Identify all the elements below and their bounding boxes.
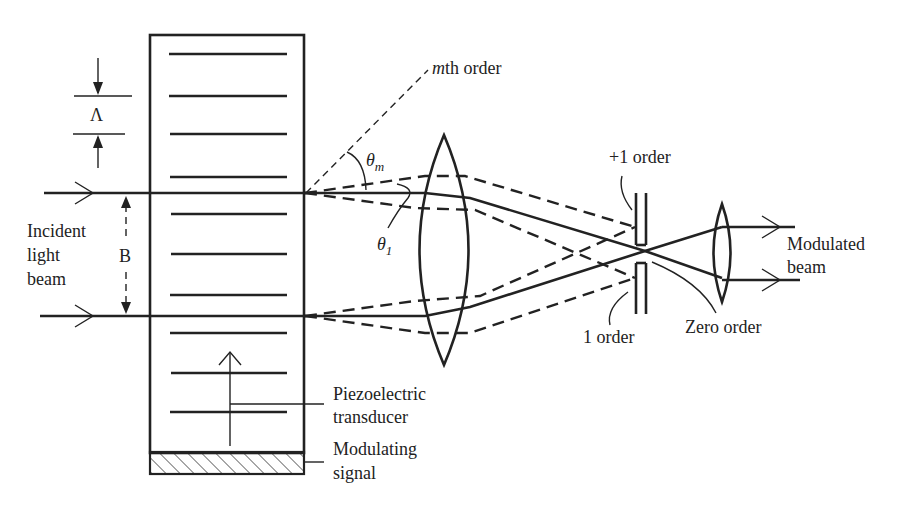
grating-lines bbox=[169, 54, 287, 412]
mth-order-ray: mth order θm bbox=[306, 58, 501, 193]
incident-label: Incident light beam bbox=[27, 221, 90, 289]
acoustic-cell bbox=[150, 35, 304, 474]
lambda-label: Λ bbox=[90, 105, 103, 125]
first-order-rays bbox=[305, 176, 635, 333]
beam-width-dimension: B bbox=[119, 196, 131, 314]
plus-1-order-label: +1 order bbox=[609, 147, 671, 167]
theta-1-label: θ1 bbox=[377, 234, 392, 258]
lambda-dimension: Λ bbox=[73, 58, 132, 168]
mth-order-label: mth order bbox=[432, 58, 501, 78]
modulating-signal-label: Modulating signal bbox=[333, 439, 422, 483]
minus-1-order-label: 1 order bbox=[583, 327, 634, 347]
b-label: B bbox=[119, 246, 131, 266]
theta-1-annotation: θ1 bbox=[377, 184, 410, 258]
piezoelectric-transducer bbox=[150, 452, 304, 474]
theta-m-label: θm bbox=[366, 150, 384, 174]
acousto-optic-diagram: Λ B Incident light beam mth order θm θ1 bbox=[0, 0, 917, 505]
modulated-beam-label: Modulated beam bbox=[787, 234, 870, 277]
focusing-lens bbox=[420, 135, 469, 365]
zero-order-label: Zero order bbox=[685, 317, 761, 337]
acoustic-wave-arrow-icon bbox=[219, 352, 241, 446]
zero-order-rays bbox=[305, 193, 722, 316]
collimating-lens bbox=[714, 204, 731, 302]
piezoelectric-label: Piezoelectric transducer bbox=[333, 384, 430, 427]
